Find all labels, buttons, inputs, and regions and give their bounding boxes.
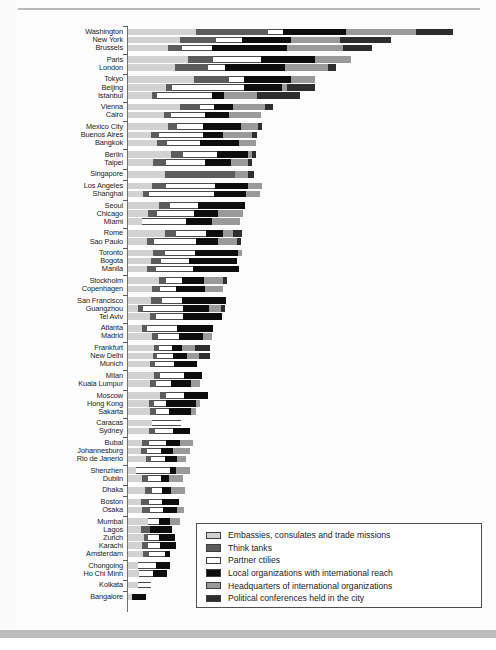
bar-segment (171, 380, 191, 387)
axis-group-tick (123, 370, 128, 371)
bar-segment (205, 112, 229, 119)
bar-segment (283, 29, 346, 36)
legend-item: Political conferences held in the city (206, 592, 481, 605)
bar-segment (156, 313, 183, 320)
city-label: Shanghai (23, 190, 123, 198)
bar-segment (149, 191, 214, 198)
bar-segment (128, 104, 180, 111)
bar-segment (177, 325, 213, 332)
chart-row: Shenzhen (20, 467, 476, 475)
city-label: Kuala Lumpur (23, 380, 123, 388)
chart-row: Osaka (20, 506, 476, 514)
stacked-bar (128, 297, 226, 304)
stacked-bar (128, 286, 223, 293)
bar-segment (205, 159, 231, 166)
city-label: Bangkok (23, 139, 123, 147)
legend-swatch-icon (206, 569, 221, 577)
bar-segment (148, 534, 159, 541)
bar-segment (128, 475, 142, 482)
stacked-bar (128, 92, 300, 99)
stacked-bar (128, 112, 261, 119)
bar-segment (233, 230, 242, 237)
bar-segment (148, 518, 159, 525)
bar-segment (182, 277, 204, 284)
chart-row: Shanghai (20, 190, 476, 198)
bar-segment (161, 475, 169, 482)
stacked-bar (128, 333, 212, 340)
bar-segment (169, 408, 191, 415)
bar-segment (128, 333, 152, 340)
bar-segment (177, 123, 203, 130)
bar-segment (238, 250, 242, 257)
bar-segment (203, 123, 241, 130)
axis-group-tick (123, 149, 128, 150)
bar-segment (128, 286, 152, 293)
bar-segment (151, 297, 162, 304)
axis-group-tick (123, 121, 128, 122)
stacked-bar (128, 238, 241, 245)
bar-segment (128, 218, 142, 225)
stacked-bar (128, 551, 170, 558)
bar-segment (287, 84, 315, 91)
stacked-bar (128, 440, 193, 447)
bar-segment (142, 507, 150, 514)
axis-group-tick (123, 200, 128, 201)
bar-segment (193, 266, 239, 273)
legend-label: Think tanks (228, 543, 272, 553)
axis-group-tick (123, 26, 128, 27)
bar-segment (160, 542, 176, 549)
chart-row: Munich (20, 360, 476, 368)
bar-segment (141, 499, 149, 506)
city-label: Brussels (23, 44, 123, 52)
bar-segment (170, 518, 180, 525)
bar-segment (221, 305, 225, 312)
bar-segment (149, 440, 166, 447)
chart-row: Kuala Lumpur (20, 380, 476, 388)
stacked-bar (128, 230, 242, 237)
stacked-bar (128, 210, 243, 217)
bar-segment (128, 400, 149, 407)
bar-segment (231, 159, 248, 166)
bar-segment (328, 64, 336, 71)
bar-segment (194, 76, 229, 83)
bar-segment (285, 64, 328, 71)
stacked-bar (128, 45, 372, 52)
bar-segment (128, 428, 149, 435)
stacked-bar (128, 250, 242, 257)
bar-segment (128, 238, 147, 245)
city-label: Sydney (23, 427, 123, 435)
bar-segment (346, 29, 416, 36)
bar-segment (159, 202, 170, 209)
stacked-bar (128, 218, 240, 225)
chart-row: Tel Aviv (20, 313, 476, 321)
bar-segment (215, 183, 248, 190)
bar-segment (179, 333, 203, 340)
bar-segment (213, 56, 261, 63)
bar-segment (166, 440, 180, 447)
bar-segment (161, 448, 173, 455)
bar-segment (223, 132, 252, 139)
bar-segment (239, 140, 256, 147)
bar-segment (128, 313, 150, 320)
legend-swatch-icon (206, 557, 221, 565)
stacked-bar (128, 507, 184, 514)
bar-segment (261, 56, 315, 63)
page-bottom-white (0, 638, 496, 650)
bar-segment (150, 507, 163, 514)
legend-swatch-icon (206, 544, 221, 552)
stacked-bar (128, 29, 453, 36)
bar-segment (128, 542, 142, 549)
bar-segment (128, 392, 160, 399)
chart-row: Boston (20, 498, 476, 506)
bar-segment (218, 238, 237, 245)
bar-segment (248, 183, 262, 190)
bar-segment (159, 345, 172, 352)
chart-row: New Delhi (20, 352, 476, 360)
chart-row: Seoul (20, 202, 476, 210)
bar-segment (160, 372, 184, 379)
bar-segment (128, 380, 150, 387)
bar-segment (166, 392, 184, 399)
stacked-bar (128, 456, 186, 463)
bar-segment (237, 238, 241, 245)
bar-segment (206, 230, 223, 237)
